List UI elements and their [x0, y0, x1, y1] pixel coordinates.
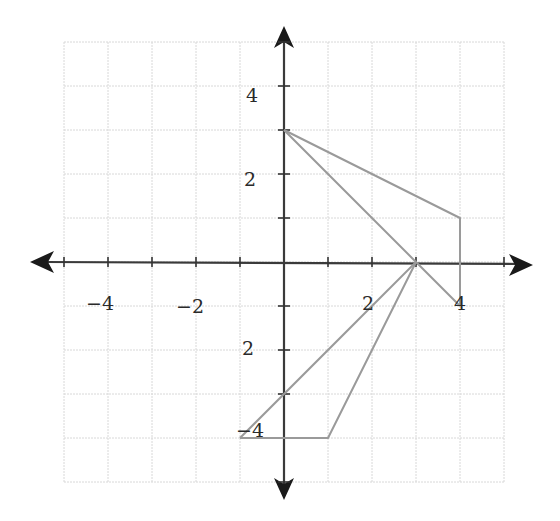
x-tick-label-neg4: −4	[86, 292, 114, 314]
x-tick-label-2: 2	[362, 292, 374, 314]
x-tick-label-4: 4	[454, 292, 466, 314]
y-tick-label-2: 2	[244, 168, 256, 190]
axes	[30, 26, 533, 500]
coordinate-plane: −4 −2 2 4 4 2 2 −4	[0, 0, 560, 521]
x-tick-label-neg2: −2	[176, 295, 204, 317]
y-tick-label-neg4: −4	[236, 419, 264, 441]
y-tick-label-neg2: 2	[242, 337, 254, 359]
series-group	[240, 130, 460, 438]
y-tick-label-4: 4	[246, 84, 258, 106]
